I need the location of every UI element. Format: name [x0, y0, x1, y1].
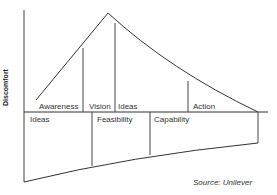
- rising-line: [36, 13, 108, 100]
- label-awareness: Awareness: [39, 102, 78, 111]
- y-axis-label: Discomfort: [2, 68, 18, 108]
- falling-curve: [108, 13, 258, 112]
- label-action: Action: [193, 102, 215, 111]
- label-ideas-lower: Ideas: [30, 115, 50, 124]
- label-capability: Capability: [154, 115, 189, 124]
- discomfort-diagram: [0, 0, 277, 195]
- label-feasibility: Feasibility: [97, 115, 133, 124]
- source-caption: Source: Unilever: [193, 178, 252, 187]
- bottom-curve: [24, 143, 258, 182]
- label-vision: Vision: [89, 102, 111, 111]
- label-ideas-upper: Ideas: [118, 102, 138, 111]
